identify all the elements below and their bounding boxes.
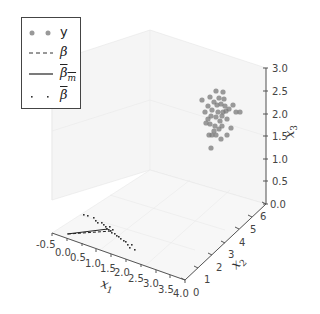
y-tick-label: 1	[204, 274, 210, 285]
legend-label: βm	[60, 65, 76, 83]
x-tick-label: 1.0	[85, 258, 101, 269]
z-axis-label: x3	[282, 125, 299, 138]
z-tick-label: 0.0	[270, 199, 286, 210]
x-axis-label: x1	[98, 276, 116, 296]
x-tick-label: 3.5	[158, 284, 174, 295]
gray-dot-icon	[28, 23, 54, 43]
small-dot-icon	[28, 86, 54, 106]
x-tick-label: 2.5	[128, 273, 144, 284]
x-tick-label: 3.0	[143, 278, 159, 289]
y-tick-label: 6	[260, 211, 266, 222]
solid-line-icon	[28, 64, 54, 84]
legend: y β βm β	[21, 17, 81, 109]
z-tick-label: 2.0	[272, 109, 288, 120]
legend-item-beta-m: βm	[22, 64, 80, 84]
y-tick-label: 5	[250, 224, 256, 235]
dashed-line-icon	[28, 43, 54, 63]
x-tick-label: -0.5	[36, 239, 56, 250]
x-tick-label: 0.0	[55, 247, 71, 258]
z-tick-label: 0.5	[272, 176, 288, 187]
legend-label: y	[60, 24, 68, 39]
y-tick-label: 2	[216, 262, 222, 273]
legend-label: β	[60, 87, 68, 102]
z-axis: 3.0 2.5 2.0 1.5 1.0 0.5 0.0 x3	[263, 63, 299, 210]
x-tick-label: 0.5	[70, 252, 86, 263]
legend-item-beta-hat: β	[22, 86, 80, 106]
z-tick-label: 3.0	[272, 63, 288, 74]
y-tick-label: 0	[193, 287, 199, 298]
legend-label: β	[60, 44, 68, 59]
z-tick-label: 1.0	[272, 154, 288, 165]
x-tick-label: 4.0	[173, 288, 189, 299]
legend-item-y: y	[22, 23, 80, 43]
legend-item-beta: β	[22, 43, 80, 63]
z-tick-label: 2.5	[272, 86, 288, 97]
y-tick-label: 4	[239, 237, 245, 248]
